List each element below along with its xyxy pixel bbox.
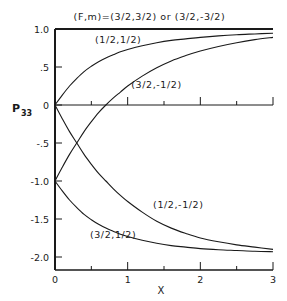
x-tick-label: 0: [52, 274, 58, 285]
y-tick-label: -1.5: [30, 214, 49, 225]
x-tick-label: 3: [270, 274, 276, 285]
annotations: (F,m)=(3/2,3/2) or (3/2,-3/2)(1/2,1/2)(3…: [74, 11, 226, 240]
y-tick-label: .5: [40, 62, 49, 73]
curve-label: (1/2,1/2): [95, 34, 141, 45]
curve-1-2-1-2: [55, 33, 273, 105]
y-tick-label: -2.0: [30, 252, 49, 263]
y-tick-label: 1.0: [34, 24, 49, 35]
axes: 1.0.50-.5-1.0-1.5-2.00123: [30, 24, 276, 285]
x-tick-label: 1: [125, 274, 131, 285]
y-axis-label: P: [12, 102, 20, 115]
curve-label: (3/2,1/2): [90, 229, 136, 240]
y-axis-label-subscript: 33: [21, 109, 32, 118]
x-axis-label: X: [158, 285, 165, 296]
y-tick-label: 0: [43, 100, 49, 111]
y-tick-label: -1.0: [30, 176, 49, 187]
x-tick-label: 2: [197, 274, 203, 285]
curve-label: (3/2,-1/2): [131, 79, 181, 90]
y-tick-label: -.5: [37, 138, 50, 149]
curve-label: (1/2,-1/2): [153, 199, 203, 210]
chart-title: (F,m)=(3/2,3/2) or (3/2,-3/2): [74, 11, 226, 22]
curves: [55, 29, 273, 252]
curve-3-2-1-2: [55, 181, 273, 252]
chart: 1.0.50-.5-1.0-1.5-2.00123 (F,m)=(3/2,3/2…: [0, 0, 287, 301]
